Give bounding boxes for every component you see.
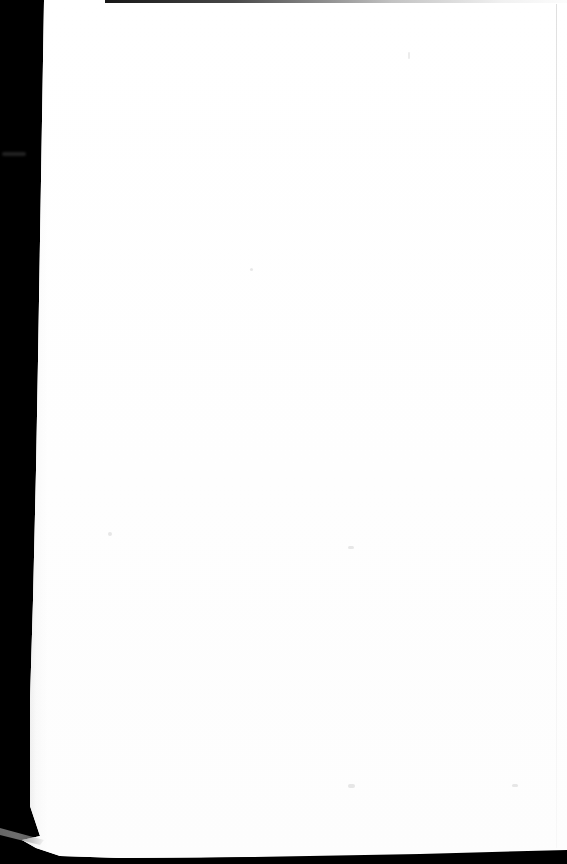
scan-speck [250,268,253,271]
scan-speck [408,52,410,59]
paper-surface [0,0,567,864]
paper-sheet [0,0,567,864]
scan-speck [348,784,355,788]
scan-speck [108,532,112,536]
scan-speck [512,784,518,787]
backdrop-smudge [2,152,26,156]
page-top-edge-line [105,0,567,3]
page-right-edge-line [556,4,557,848]
scanned-page-image: A blank white scanned page photographed … [0,0,567,864]
scan-speck [348,546,354,549]
